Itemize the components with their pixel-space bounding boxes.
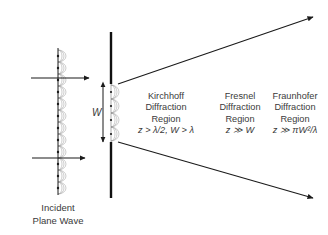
kirchhoff-line-3: Region bbox=[126, 114, 206, 125]
aperture-width-label: W bbox=[92, 107, 101, 118]
kirchhoff-line-1: Kirchhoff bbox=[126, 91, 206, 102]
fresnel-condition: z ≫ W bbox=[210, 125, 270, 136]
incident-wavelets bbox=[58, 50, 66, 194]
fraunhofer-region-label: Fraunhofer Diffraction Region z ≫ πW²/λ bbox=[262, 91, 328, 137]
kirchhoff-condition: z > λ/2, W > λ bbox=[126, 125, 206, 136]
fresnel-region-label: Fresnel Diffraction Region z ≫ W bbox=[210, 91, 270, 137]
fraunhofer-line-2: Diffraction bbox=[262, 102, 328, 113]
kirchhoff-region-label: Kirchhoff Diffraction Region z > λ/2, W … bbox=[126, 91, 206, 137]
incident-plane-wave-label: Incident Plane Wave bbox=[28, 202, 88, 227]
aperture-wavelets bbox=[111, 85, 119, 141]
beam-edge-top bbox=[118, 17, 313, 84]
fresnel-line-2: Diffraction bbox=[210, 102, 270, 113]
fraunhofer-line-1: Fraunhofer bbox=[262, 91, 328, 102]
fresnel-line-3: Region bbox=[210, 114, 270, 125]
fraunhofer-condition: z ≫ πW²/λ bbox=[262, 125, 328, 136]
incident-line-1: Incident bbox=[28, 202, 88, 215]
incident-line-2: Plane Wave bbox=[28, 215, 88, 228]
kirchhoff-line-2: Diffraction bbox=[126, 102, 206, 113]
fresnel-line-1: Fresnel bbox=[210, 91, 270, 102]
fraunhofer-line-3: Region bbox=[262, 114, 328, 125]
beam-edge-bottom bbox=[118, 142, 313, 198]
